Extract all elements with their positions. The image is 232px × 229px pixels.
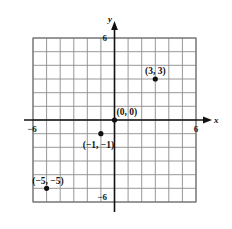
point-marker[interactable] xyxy=(98,131,103,136)
y-axis-tick-top: 6 xyxy=(103,33,108,43)
x-axis-tick-right: 6 xyxy=(194,124,199,134)
point-label-neg1-neg1: (−1, −1) xyxy=(83,140,114,151)
x-axis-tick-left: −6 xyxy=(27,124,37,134)
coordinate-plane-svg: x y 6 −6 −6 6 (3, 3) (0, 0) (−1, −1) (−5… xyxy=(0,0,232,229)
point-marker[interactable] xyxy=(153,76,158,81)
point-marker[interactable] xyxy=(44,186,49,191)
point-marker[interactable] xyxy=(112,117,117,122)
point-label-3-3: (3, 3) xyxy=(145,66,166,77)
coordinate-plane-figure: x y 6 −6 −6 6 (3, 3) (0, 0) (−1, −1) (−5… xyxy=(0,0,232,229)
point-label-neg5-neg5: (−5, −5) xyxy=(32,176,63,187)
x-axis-arrow-icon xyxy=(203,117,212,124)
y-axis-tick-bottom: −6 xyxy=(97,192,107,202)
x-axis-label: x xyxy=(213,115,219,125)
point-label-0-0: (0, 0) xyxy=(117,107,138,118)
y-axis-arrow-icon xyxy=(111,21,118,30)
y-axis-label: y xyxy=(107,14,113,24)
